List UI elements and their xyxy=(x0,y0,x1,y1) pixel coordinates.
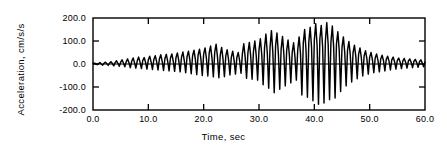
x-tick-label: 40.0 xyxy=(305,114,323,124)
y-axis-title: Acceleration, cm/s/s xyxy=(15,10,26,130)
x-axis-tick-labels: 0.010.020.030.040.050.060.0 xyxy=(86,114,434,124)
acceleration-time-plot: 200.0100.00.0-100.0-200.0 0.010.020.030.… xyxy=(0,0,447,152)
y-tick-label: -100.0 xyxy=(59,82,86,92)
seismogram-figure: 200.0100.00.0-100.0-200.0 0.010.020.030.… xyxy=(0,0,447,152)
y-tick-label: 0.0 xyxy=(73,59,86,69)
y-tick-label: -200.0 xyxy=(59,105,86,115)
x-tick-label: 30.0 xyxy=(250,114,268,124)
x-tick-label: 10.0 xyxy=(139,114,157,124)
x-tick-label: 50.0 xyxy=(361,114,379,124)
x-tick-label: 20.0 xyxy=(195,114,213,124)
y-tick-label: 100.0 xyxy=(62,36,86,46)
x-tick-label: 0.0 xyxy=(86,114,99,124)
y-tick-label: 200.0 xyxy=(62,13,86,23)
x-tick-label: 60.0 xyxy=(416,114,434,124)
waveform-trace xyxy=(93,23,425,105)
y-axis-tick-labels: 200.0100.00.0-100.0-200.0 xyxy=(59,13,86,115)
x-axis-title: Time, sec xyxy=(0,131,447,142)
